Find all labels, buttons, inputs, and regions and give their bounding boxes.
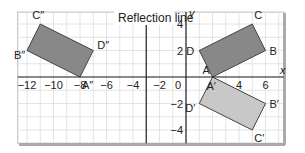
y-tick-label: −2 <box>170 98 183 110</box>
vertex-label: C′ <box>254 132 264 144</box>
vertex-label: B″ <box>14 49 25 61</box>
figure-title: Reflection line <box>118 11 194 25</box>
vertex-label: D′ <box>185 102 195 114</box>
frame-shadow <box>19 143 285 146</box>
frame-shadow-right <box>283 13 286 145</box>
x-tick-label: −2 <box>153 79 166 91</box>
vertex-label: A′ <box>207 80 216 92</box>
vertex-label: C <box>254 9 262 21</box>
x-tick-label: −12 <box>18 79 37 91</box>
vertex-label: C″ <box>32 9 44 21</box>
vertex-label: A″ <box>82 79 93 91</box>
x-axis-label: x <box>279 64 286 76</box>
x-tick-label: −4 <box>127 79 140 91</box>
reflection-diagram: −12−10−8−6−4−204642−2−4xyABCDA′B′C′D′A″B… <box>0 0 305 153</box>
y-tick-label: 2 <box>177 45 183 57</box>
x-tick-label: −10 <box>44 79 63 91</box>
vertex-label: A <box>203 64 211 76</box>
x-tick-label: 4 <box>236 79 242 91</box>
x-tick-label: 6 <box>262 79 268 91</box>
vertex-label: B <box>270 45 277 57</box>
vertex-label: B′ <box>270 98 279 110</box>
y-tick-label: −4 <box>170 124 183 136</box>
x-tick-label: −6 <box>100 79 113 91</box>
x-tick-label: 0 <box>175 79 181 91</box>
vertex-label: D <box>186 45 194 57</box>
vertex-label: D″ <box>97 39 109 51</box>
